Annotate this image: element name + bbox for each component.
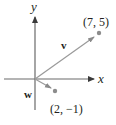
y-axis-label: y [29, 0, 37, 14]
point-w-tip [53, 89, 57, 93]
vector-v [35, 31, 101, 79]
vector-diagram: x y v (7, 5) w (2, −1) [0, 0, 116, 125]
vector-v-label: v [61, 39, 67, 51]
vector-w [35, 79, 57, 93]
point-w-coordinates: (2, −1) [50, 102, 83, 116]
point-v-tip [97, 31, 101, 35]
x-axis-label: x [97, 71, 104, 86]
vector-w-label: w [24, 88, 32, 100]
point-v-coordinates: (7, 5) [83, 15, 109, 29]
